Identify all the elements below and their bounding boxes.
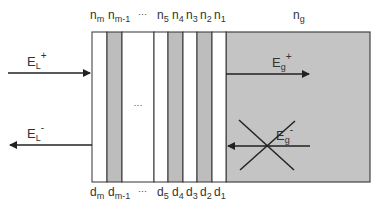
layer-m-1 <box>107 32 122 182</box>
label-d-4: d4 <box>172 185 184 201</box>
layer-5 <box>154 32 168 182</box>
label-d-2: d2 <box>200 185 212 201</box>
label-d-5: d5 <box>157 185 169 201</box>
label-n-5: n5 <box>157 8 169 24</box>
label-d-3: d3 <box>186 185 198 201</box>
label-d-m: dm <box>90 185 104 201</box>
middle-ellipsis: ··· <box>134 100 143 110</box>
label-n-2: n2 <box>200 8 212 24</box>
multilayer-diagram: ··· nm nm-1 ··· n5 n4 n3 n2 n1 ng dm dm-… <box>0 0 378 205</box>
label-n-m-1: nm-1 <box>108 8 130 24</box>
label-d-1: d1 <box>214 185 226 201</box>
layer-1 <box>212 32 226 182</box>
layer-3 <box>183 32 197 182</box>
label-EL-minus: EL- <box>27 122 44 143</box>
layer-4 <box>168 32 183 182</box>
label-d-m-1: dm-1 <box>108 185 130 201</box>
label-n-4: n4 <box>172 8 184 24</box>
label-top-ellipsis: ··· <box>138 9 147 19</box>
label-n-g: ng <box>293 8 305 24</box>
label-EL-plus: EL+ <box>27 50 47 71</box>
layer-m <box>92 32 107 182</box>
top-index-labels: nm nm-1 ··· n5 n4 n3 n2 n1 ng <box>90 8 305 24</box>
layer-2 <box>197 32 212 182</box>
label-n-3: n3 <box>186 8 198 24</box>
layer-stack <box>92 32 226 182</box>
label-n-m: nm <box>90 8 104 24</box>
label-n-1: n1 <box>214 8 226 24</box>
substrate <box>226 32 370 182</box>
bottom-thickness-labels: dm dm-1 ··· d5 d4 d3 d2 d1 <box>90 185 226 201</box>
label-bottom-ellipsis: ··· <box>138 186 147 196</box>
